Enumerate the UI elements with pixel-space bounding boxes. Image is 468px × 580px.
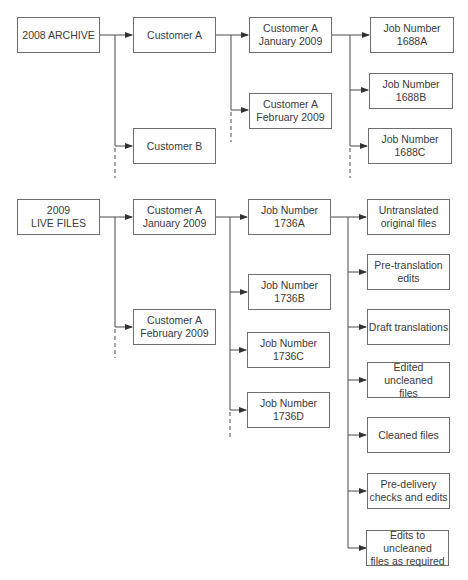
box-label: 2009 LIVE FILES (31, 204, 86, 230)
box-label: Pre-translation edits (374, 259, 442, 285)
stage-cleaned-files: Cleaned files (367, 417, 450, 453)
box-label: 2008 ARCHIVE (22, 29, 94, 42)
job-1688a: Job Number 1688A (370, 17, 454, 53)
box-label: Customer A January 2009 (259, 22, 323, 48)
box-label: Job Number 1688A (383, 22, 440, 48)
box-label: Edited uncleaned files (368, 361, 449, 400)
root-2008-archive: 2008 ARCHIVE (17, 17, 100, 53)
archive-customer-a-january-2009: Customer A January 2009 (249, 17, 332, 53)
box-label: Customer A February 2009 (256, 98, 324, 124)
archive-customer-a: Customer A (133, 17, 216, 53)
box-label: Job Number 1736C (260, 337, 317, 363)
box-label: Job Number 1688C (381, 133, 438, 159)
box-label: Job Number 1736A (261, 204, 318, 230)
archive-customer-a-february-2009: Customer A February 2009 (249, 93, 332, 129)
box-label: Customer A (147, 29, 202, 42)
job-1736d: Job Number 1736D (247, 392, 330, 428)
box-label: Draft translations (369, 321, 448, 334)
box-label: Untranslated original files (379, 204, 439, 230)
job-1688b: Job Number 1688B (369, 73, 453, 109)
stage-pre-delivery-checks: Pre-delivery checks and edits (367, 473, 450, 509)
job-1736b: Job Number 1736B (248, 274, 331, 310)
box-label: Customer A January 2009 (143, 204, 207, 230)
box-label: Job Number 1688B (382, 78, 439, 104)
live-customer-a-january-2009: Customer A January 2009 (133, 199, 216, 235)
stage-edited-uncleaned-files: Edited uncleaned files (367, 362, 450, 398)
box-label: Edits to uncleaned files as required (367, 529, 448, 568)
stage-draft-translations: Draft translations (367, 309, 450, 345)
stage-pre-translation-edits: Pre-translation edits (367, 254, 450, 290)
box-label: Job Number 1736D (260, 397, 317, 423)
box-label: Cleaned files (378, 429, 439, 442)
box-label: Job Number 1736B (261, 279, 318, 305)
job-1736c: Job Number 1736C (247, 332, 330, 368)
box-label: Customer B (147, 140, 202, 153)
stage-edits-to-uncleaned-files: Edits to uncleaned files as required (366, 530, 449, 566)
box-label: Customer A February 2009 (140, 314, 208, 340)
folder-structure-diagram: 2008 ARCHIVE Customer A Customer B Custo… (0, 0, 468, 580)
live-customer-a-february-2009: Customer A February 2009 (133, 309, 216, 345)
job-1688c: Job Number 1688C (368, 128, 452, 164)
box-label: Pre-delivery checks and edits (369, 478, 447, 504)
job-1736a: Job Number 1736A (248, 199, 331, 235)
archive-customer-b: Customer B (133, 128, 216, 164)
stage-untranslated-original-files: Untranslated original files (367, 199, 450, 235)
root-2009-live-files: 2009 LIVE FILES (17, 199, 100, 235)
